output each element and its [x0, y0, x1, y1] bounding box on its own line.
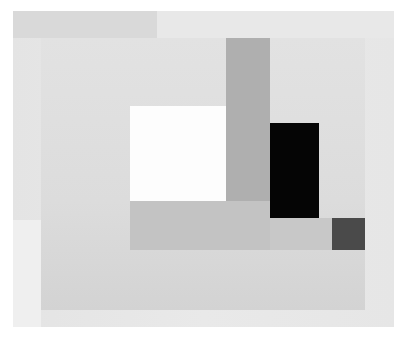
left-lower-strip [13, 220, 41, 327]
top-right-band [157, 11, 394, 38]
gray-horizontal-bar [130, 201, 270, 250]
gray-horizontal-bar-right [270, 218, 332, 250]
gray-vertical-bar [226, 38, 270, 201]
white-square [130, 106, 226, 201]
dark-gray-square [332, 218, 365, 250]
artwork-description: Abstract geometric grayscale composition… [0, 0, 1, 1]
top-left-band [13, 11, 157, 38]
black-rectangle [270, 123, 319, 218]
